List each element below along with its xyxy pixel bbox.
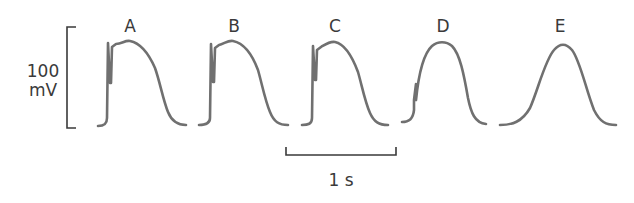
action-potential-figure: A B C D E 100 mV 1 s [0, 0, 634, 203]
y-scale-unit: mV [18, 81, 68, 100]
trace-b [199, 41, 288, 125]
y-scale-value: 100 [18, 62, 68, 81]
trace-label-d: D [436, 18, 449, 35]
trace-d [402, 42, 486, 124]
trace-c [302, 42, 388, 125]
x-scale-bar [286, 147, 396, 155]
y-scale-label: 100 mV [18, 62, 68, 100]
trace-label-a: A [124, 18, 136, 35]
trace-label-b: B [228, 18, 240, 35]
y-scale-bar [67, 27, 76, 128]
trace-label-c: C [329, 18, 341, 35]
x-scale-label: 1 s [328, 172, 353, 189]
trace-e [500, 45, 616, 125]
traces-canvas [0, 0, 634, 203]
trace-label-e: E [555, 18, 566, 35]
trace-a [98, 41, 186, 126]
